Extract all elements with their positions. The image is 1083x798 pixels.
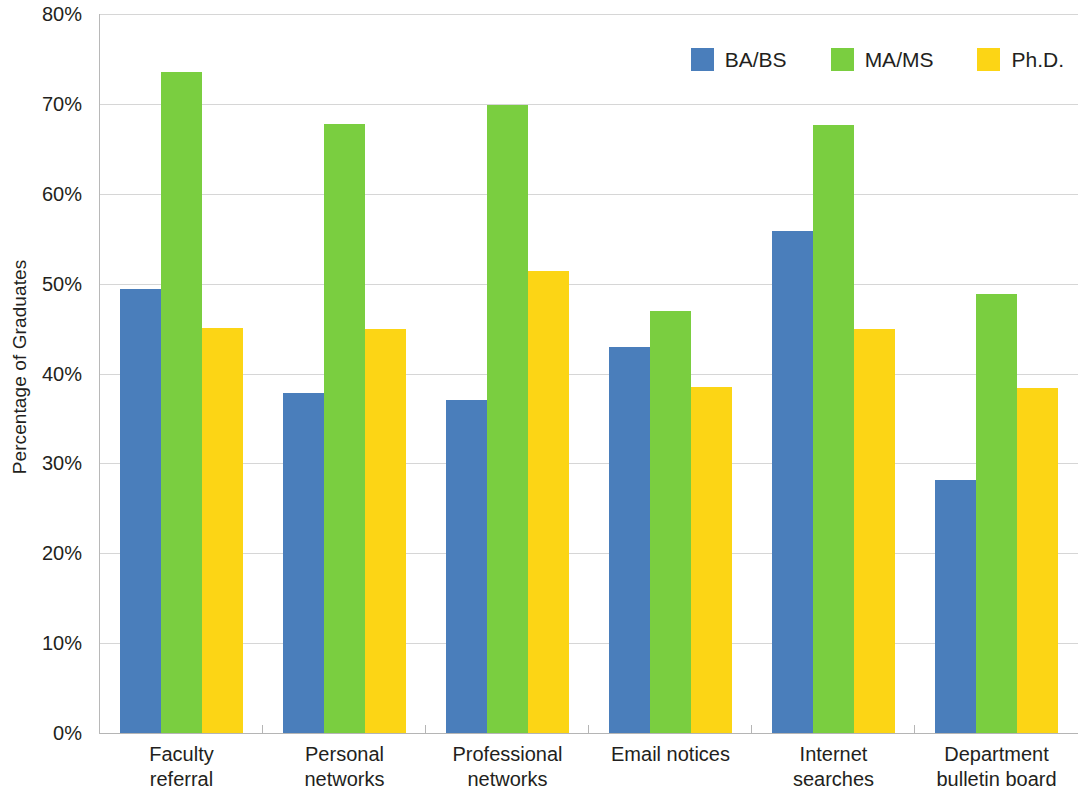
bar-groups <box>100 14 1078 733</box>
bar-group-bars <box>263 14 426 733</box>
bar-group <box>752 14 915 733</box>
y-axis-tick-label: 60% <box>42 184 82 204</box>
x-axis-category-label-line: Personal <box>265 742 424 767</box>
x-axis-category-label: Professionalnetworks <box>426 742 589 798</box>
x-axis-category-label-line: Faculty <box>102 742 261 767</box>
bar-group <box>915 14 1078 733</box>
x-axis-category-label: Personalnetworks <box>263 742 426 798</box>
y-axis-tick-label: 30% <box>42 453 82 473</box>
x-axis-category-label-line: Professional <box>428 742 587 767</box>
x-axis-category-label-line: Department <box>917 742 1076 767</box>
bar-group <box>589 14 752 733</box>
x-axis-category-label-line: searches <box>754 767 913 792</box>
bar-ma-ms[interactable] <box>650 311 691 733</box>
legend-item[interactable]: Ph.D. <box>977 48 1064 71</box>
bar-group-bars <box>426 14 589 733</box>
legend-label: Ph.D. <box>1011 49 1064 70</box>
y-axis-tick-label: 10% <box>42 633 82 653</box>
x-axis-category-label-line: Internet <box>754 742 913 767</box>
bar-ph-d[interactable] <box>528 271 569 733</box>
legend-label: MA/MS <box>865 49 934 70</box>
bar-ba-bs[interactable] <box>935 480 976 733</box>
y-axis-tick-label: 50% <box>42 274 82 294</box>
gridline <box>100 733 1078 734</box>
y-axis-tick-label: 80% <box>42 4 82 24</box>
legend-swatch-icon <box>977 48 1000 71</box>
y-axis-tick-label: 70% <box>42 94 82 114</box>
x-axis-category-label-line: referral <box>102 767 261 792</box>
y-axis-tick-labels: 0%10%20%30%40%50%60%70%80% <box>0 0 92 798</box>
y-axis-tick-label: 0% <box>53 723 82 743</box>
x-axis-category-labels: FacultyreferralPersonalnetworksProfessio… <box>100 742 1078 798</box>
x-axis-category-label-line: bulletin board <box>917 767 1076 792</box>
bar-ba-bs[interactable] <box>446 400 487 733</box>
legend-swatch-icon <box>691 48 714 71</box>
x-axis-category-label-line: Email notices <box>591 742 750 767</box>
bar-group <box>100 14 263 733</box>
bar-ba-bs[interactable] <box>283 393 324 733</box>
bar-group-bars <box>752 14 915 733</box>
x-axis-category-label: Facultyreferral <box>100 742 263 798</box>
legend-label: BA/BS <box>725 49 787 70</box>
legend: BA/BSMA/MSPh.D. <box>0 48 1072 71</box>
x-axis-category-label: Email notices <box>589 742 752 798</box>
bar-ma-ms[interactable] <box>813 125 854 733</box>
bar-ba-bs[interactable] <box>772 231 813 733</box>
grouped-bar-chart: Percentage of Graduates 0%10%20%30%40%50… <box>0 0 1083 798</box>
bar-ph-d[interactable] <box>854 329 895 733</box>
x-axis-category-label-line: networks <box>265 767 424 792</box>
x-axis-category-label: Internetsearches <box>752 742 915 798</box>
plot-area <box>100 14 1078 733</box>
legend-swatch-icon <box>831 48 854 71</box>
x-axis-category-label-line: networks <box>428 767 587 792</box>
legend-item[interactable]: BA/BS <box>691 48 787 71</box>
bar-ph-d[interactable] <box>691 387 732 733</box>
bar-ma-ms[interactable] <box>161 72 202 733</box>
bar-group-bars <box>589 14 752 733</box>
x-axis-category-label: Departmentbulletin board <box>915 742 1078 798</box>
bar-group <box>426 14 589 733</box>
bar-group-bars <box>100 14 263 733</box>
bar-ph-d[interactable] <box>202 328 243 733</box>
bar-ma-ms[interactable] <box>976 294 1017 733</box>
bar-ba-bs[interactable] <box>609 347 650 733</box>
y-axis-tick-label: 40% <box>42 364 82 384</box>
y-axis-tick-label: 20% <box>42 543 82 563</box>
bar-group-bars <box>915 14 1078 733</box>
bar-ph-d[interactable] <box>365 329 406 733</box>
bar-ph-d[interactable] <box>1017 388 1058 733</box>
bar-ba-bs[interactable] <box>120 289 161 733</box>
bar-ma-ms[interactable] <box>487 105 528 733</box>
bar-ma-ms[interactable] <box>324 124 365 733</box>
bar-group <box>263 14 426 733</box>
legend-item[interactable]: MA/MS <box>831 48 934 71</box>
